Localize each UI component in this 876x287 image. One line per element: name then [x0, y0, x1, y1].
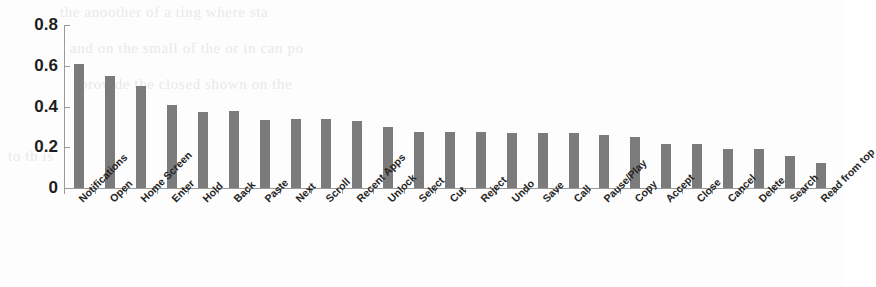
y-axis-tick-label: 0.8 — [0, 15, 58, 35]
bar — [661, 144, 671, 188]
bar — [445, 132, 455, 188]
bar — [538, 133, 548, 188]
y-axis-tick-label: 0.6 — [0, 56, 58, 76]
bar — [816, 163, 826, 188]
bar — [74, 64, 84, 188]
bar — [785, 156, 795, 188]
bar — [476, 132, 486, 188]
y-axis-tick-label: 0 — [0, 178, 58, 198]
bar — [198, 112, 208, 188]
y-axis-tick-label: 0.4 — [0, 97, 58, 117]
bar — [260, 120, 270, 188]
bar — [507, 133, 517, 188]
scan-bleed-text: the anoother of a ting where sta — [60, 4, 268, 21]
bar — [352, 121, 362, 188]
bar — [569, 133, 579, 188]
bar — [599, 135, 609, 188]
bar — [723, 149, 733, 188]
bar — [321, 119, 331, 188]
y-axis-tick-label: 0.2 — [0, 137, 58, 157]
bar — [229, 111, 239, 188]
x-axis-tick — [64, 189, 65, 194]
bar — [291, 119, 301, 188]
bar — [136, 86, 146, 188]
